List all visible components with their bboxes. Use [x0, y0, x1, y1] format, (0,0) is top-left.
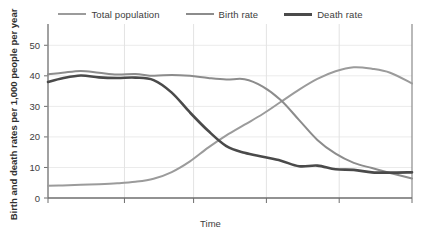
- series-total-population: [48, 67, 412, 186]
- y-tick-label: 10: [29, 162, 40, 173]
- series-death-rate: [48, 76, 412, 173]
- series-birth-rate: [48, 71, 412, 179]
- x-axis-title: Time: [0, 218, 421, 229]
- y-tick-label: 40: [29, 70, 40, 81]
- y-tick-label: 20: [29, 131, 40, 142]
- y-tick-label: 50: [29, 40, 40, 51]
- y-tick-label: 30: [29, 101, 40, 112]
- y-tick-label: 0: [35, 193, 40, 204]
- demographic-transition-chart: Total population Birth rate Death rate B…: [0, 0, 421, 242]
- plot-area: 01020304050: [0, 0, 421, 242]
